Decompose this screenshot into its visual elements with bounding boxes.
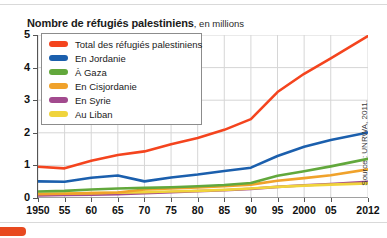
y-axis-spine bbox=[37, 35, 38, 198]
x-axis-tick-label: 95 bbox=[272, 204, 284, 216]
x-axis-tick-mark bbox=[91, 198, 92, 202]
legend-color-swatch bbox=[49, 83, 68, 89]
x-axis-tick-mark bbox=[65, 198, 66, 202]
decorative-corner-mark bbox=[0, 227, 26, 236]
series-line bbox=[38, 159, 368, 192]
x-axis-tick-mark bbox=[304, 198, 305, 202]
legend-item-label: À Gaza bbox=[75, 67, 107, 78]
legend-item-label: En Syrie bbox=[75, 95, 111, 106]
x-axis-tick-label: 75 bbox=[165, 204, 177, 216]
x-axis-tick-mark bbox=[331, 198, 332, 202]
source-note: Source : UNRWA, 2011. bbox=[360, 100, 369, 186]
chart-title-unit: , en millions bbox=[194, 18, 244, 29]
x-axis-tick-mark bbox=[198, 198, 199, 202]
x-axis-tick-mark bbox=[368, 198, 369, 202]
x-axis-tick-label: 85 bbox=[218, 204, 230, 216]
x-axis-tick-mark bbox=[278, 198, 279, 202]
legend-item-en-syrie[interactable]: En Syrie bbox=[45, 93, 199, 107]
x-axis-tick-label: 2000 bbox=[292, 204, 315, 216]
top-divider bbox=[0, 4, 387, 5]
x-axis-tick-label: 80 bbox=[192, 204, 204, 216]
chart-title-main: Nombre de réfugiés palestiniens bbox=[27, 17, 194, 29]
y-axis-tick-label: 1 bbox=[8, 158, 30, 170]
legend-item-label: Total des réfugiés palestiniens bbox=[75, 39, 202, 50]
legend-color-swatch bbox=[49, 69, 68, 75]
legend-color-swatch bbox=[49, 41, 68, 47]
x-axis-tick-mark bbox=[224, 198, 225, 202]
x-axis-tick-label: 65 bbox=[112, 204, 124, 216]
bottom-divider bbox=[0, 222, 387, 223]
x-axis-tick-mark bbox=[171, 198, 172, 202]
y-axis-tick-label: 4 bbox=[8, 61, 30, 73]
x-axis-tick-mark bbox=[251, 198, 252, 202]
y-axis-tick-label: 5 bbox=[8, 28, 30, 40]
legend-color-swatch bbox=[49, 111, 68, 117]
y-axis-tick-label: 2 bbox=[8, 126, 30, 138]
legend-item-en-jordanie[interactable]: En Jordanie bbox=[45, 51, 199, 65]
x-axis-tick-label: 55 bbox=[59, 204, 71, 216]
legend-item-en-cisjordanie[interactable]: En Cisjordanie bbox=[45, 79, 199, 93]
legend-color-swatch bbox=[49, 97, 68, 103]
series-line bbox=[38, 132, 368, 181]
x-axis-tick-label: 60 bbox=[85, 204, 97, 216]
chart-legend: Total des réfugiés palestiniensEn Jordan… bbox=[41, 33, 202, 125]
x-axis-tick-label: 05 bbox=[325, 204, 337, 216]
x-axis-tick-mark bbox=[38, 198, 39, 202]
legend-color-swatch bbox=[49, 55, 68, 61]
y-axis-tick-label: 3 bbox=[8, 93, 30, 105]
legend-item-total-des-refugies-palestiniens[interactable]: Total des réfugiés palestiniens bbox=[45, 37, 199, 51]
x-axis-tick-label: 2012 bbox=[356, 204, 379, 216]
x-axis-tick-label: 1950 bbox=[26, 204, 49, 216]
legend-item-au-liban[interactable]: Au Liban bbox=[45, 107, 199, 121]
x-axis-tick-mark bbox=[144, 198, 145, 202]
page-title: Nombre de réfugiés palestiniens, en mill… bbox=[27, 13, 244, 31]
y-axis-tick-label: 0 bbox=[8, 191, 30, 203]
legend-item-label: En Jordanie bbox=[75, 53, 126, 64]
legend-item-label: En Cisjordanie bbox=[75, 81, 137, 92]
x-axis-tick-label: 70 bbox=[139, 204, 151, 216]
legend-item-a-gaza[interactable]: À Gaza bbox=[45, 65, 199, 79]
x-axis-tick-label: 90 bbox=[245, 204, 257, 216]
chart-page: Nombre de réfugiés palestiniens, en mill… bbox=[0, 0, 387, 238]
x-axis-tick-mark bbox=[118, 198, 119, 202]
legend-item-label: Au Liban bbox=[75, 109, 113, 120]
